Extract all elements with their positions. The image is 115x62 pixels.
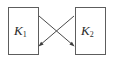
diagram-canvas: K1 K2 [0, 0, 115, 62]
node-label-k1: K1 [14, 24, 27, 39]
node-label-k1-subscript: 1 [23, 30, 27, 39]
edge-k1-to-k2-line [39, 16, 72, 44]
node-label-k2-base: K [81, 23, 90, 38]
edge-k2-to-k1-line [41, 16, 74, 44]
node-label-k1-base: K [14, 23, 23, 38]
node-label-k2-subscript: 2 [90, 30, 94, 39]
node-label-k2: K2 [81, 24, 94, 39]
